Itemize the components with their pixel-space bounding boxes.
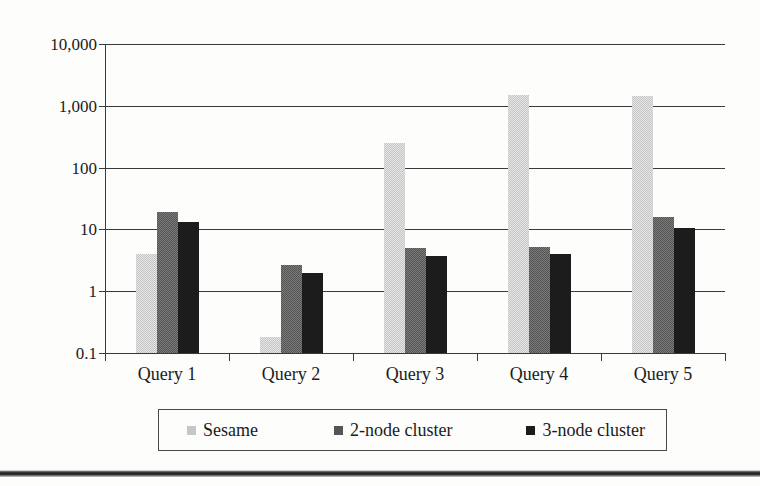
bar-query-3-2-node-cluster bbox=[405, 248, 426, 353]
x-axis-tick bbox=[601, 353, 602, 361]
legend-item-2-node-cluster[interactable]: 2-node cluster bbox=[334, 420, 452, 440]
legend-label: 3-node cluster bbox=[542, 420, 644, 440]
bar-query-4-2-node-cluster bbox=[529, 247, 550, 353]
x-axis-tick bbox=[477, 353, 478, 361]
y-axis-tick-label: 10 bbox=[80, 220, 97, 239]
bar-query-5-3-node-cluster bbox=[674, 228, 695, 353]
plot-area bbox=[105, 44, 725, 353]
x-axis-label-query-5: Query 5 bbox=[601, 364, 725, 384]
bar-query-4-sesame bbox=[508, 95, 529, 353]
x-axis-label-query-2: Query 2 bbox=[229, 364, 353, 384]
y-axis-tick-label: 0.1 bbox=[76, 344, 97, 363]
chart-legend: Sesame2-node cluster3-node cluster bbox=[158, 409, 667, 451]
x-axis-label-query-4: Query 4 bbox=[477, 364, 601, 384]
legend-swatch-2-node bbox=[334, 426, 343, 435]
page-footer-rule bbox=[0, 470, 760, 477]
x-axis-label-query-3: Query 3 bbox=[353, 364, 477, 384]
x-axis-tick bbox=[229, 353, 230, 361]
bar-query-2-3-node-cluster bbox=[302, 273, 323, 353]
bar-chart-figure: 10,0001,0001001010.1 Query 1Query 2Query… bbox=[0, 0, 760, 486]
x-axis-tick bbox=[105, 353, 106, 361]
y-axis-tick-label: 1 bbox=[89, 282, 98, 301]
bar-query-1-3-node-cluster bbox=[178, 222, 199, 353]
x-axis-tick bbox=[353, 353, 354, 361]
bar-query-4-3-node-cluster bbox=[550, 254, 571, 353]
y-axis-tick-label: 100 bbox=[72, 159, 98, 178]
x-axis-tick bbox=[725, 353, 726, 361]
legend-label: 2-node cluster bbox=[350, 420, 452, 440]
x-axis-line bbox=[105, 353, 725, 354]
bar-query-1-2-node-cluster bbox=[157, 212, 178, 353]
bar-query-5-sesame bbox=[632, 96, 653, 353]
bar-query-3-3-node-cluster bbox=[426, 256, 447, 353]
legend-item-3-node-cluster[interactable]: 3-node cluster bbox=[526, 420, 644, 440]
bar-query-1-sesame bbox=[136, 254, 157, 353]
bar-query-2-2-node-cluster bbox=[281, 265, 302, 353]
legend-swatch-3-node bbox=[526, 426, 535, 435]
bar-query-2-sesame bbox=[260, 337, 281, 353]
bar-query-3-sesame bbox=[384, 143, 405, 353]
bar-query-5-2-node-cluster bbox=[653, 217, 674, 353]
x-axis-label-query-1: Query 1 bbox=[105, 364, 229, 384]
y-axis-tick-label: 10,000 bbox=[50, 35, 97, 54]
y-axis-tick-label: 1,000 bbox=[59, 97, 97, 116]
legend-item-sesame[interactable]: Sesame bbox=[187, 420, 258, 440]
legend-swatch-sesame bbox=[187, 426, 196, 435]
legend-label: Sesame bbox=[203, 420, 258, 440]
